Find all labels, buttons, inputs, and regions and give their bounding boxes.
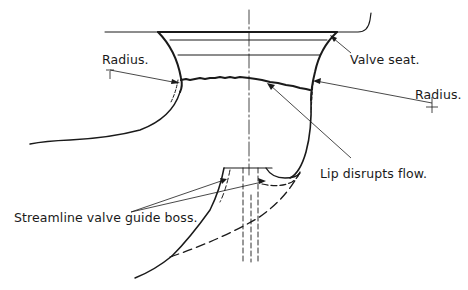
streamline-guide-boss-label: Streamline valve guide boss. [14,212,198,225]
port-drawing [0,0,468,290]
radius-right-label: Radius. [415,89,462,102]
valve-stem [243,168,258,262]
right-port-wall [290,100,311,178]
radius-left-leader [106,70,180,84]
lip-disrupts-flow-label: Lip disrupts flow. [320,168,427,181]
diagram-canvas: Radius. Valve seat. Radius. Lip disrupts… [0,0,468,290]
left-port-wall [30,92,180,144]
lip-leader [267,83,351,158]
radius-left-label: Radius. [102,54,149,67]
valve-seat-leader [330,35,351,53]
port-floor [135,256,172,278]
right-throat-wall [311,32,337,100]
lip-line [181,77,310,90]
guide-boss-leaders [131,178,266,212]
valve-seat-label: Valve seat. [350,54,420,67]
head-face-lines [105,13,371,55]
